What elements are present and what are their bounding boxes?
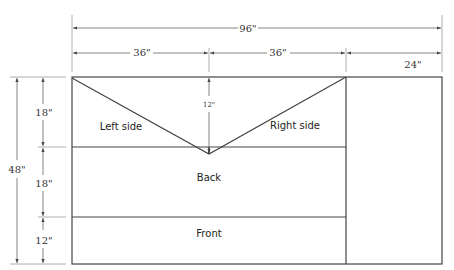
- panel-front: Front: [196, 228, 221, 239]
- middle-width-label: 36": [269, 47, 286, 58]
- panel-back: Back: [197, 172, 221, 183]
- total-width-label: 96": [239, 23, 256, 34]
- row2-height-label: 18": [35, 178, 52, 189]
- top-extension-lines: [72, 15, 442, 72]
- row3-height-label: 12": [35, 235, 52, 246]
- left-width-label: 36": [133, 47, 150, 58]
- v-depth-label: 12": [203, 101, 215, 109]
- panel-left-side: Left side: [100, 121, 142, 132]
- row1-height-label: 18": [35, 107, 52, 118]
- panel-right-side: Right side: [270, 120, 320, 131]
- total-height-label: 48": [8, 164, 25, 175]
- right-width-label: 24": [404, 59, 421, 70]
- cut-layout-diagram: 96" 36" 36" 24" 48" 18" 18": [0, 0, 454, 270]
- plywood-sheet-outline: [72, 77, 442, 264]
